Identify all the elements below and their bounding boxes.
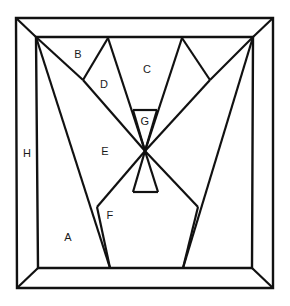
label-c: C — [143, 63, 151, 75]
label-h: H — [23, 147, 31, 159]
label-b: B — [74, 48, 82, 60]
label-d: D — [100, 78, 108, 90]
label-g: G — [141, 115, 150, 127]
folded-panel-diagram: ABCDEFGH — [0, 0, 290, 306]
label-e: E — [101, 145, 109, 157]
label-a: A — [64, 231, 72, 243]
label-f: F — [107, 209, 114, 221]
diagram-root: ABCDEFGH — [0, 0, 290, 306]
